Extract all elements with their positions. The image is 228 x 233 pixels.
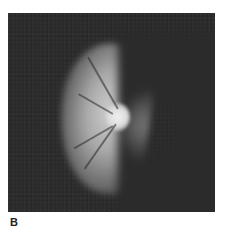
panel-label: B	[10, 216, 18, 228]
shadow-mask	[118, 33, 215, 212]
fundus-photo	[8, 13, 215, 212]
